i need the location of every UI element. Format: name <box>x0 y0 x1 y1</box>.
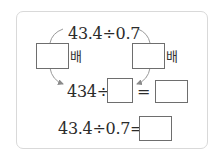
row3-prefix: 43.4÷0.7= <box>58 121 143 137</box>
left-multiplier-input[interactable] <box>36 43 69 69</box>
right-multiplier-unit: 배 <box>166 50 178 63</box>
row2-prefix: 434÷ <box>67 84 110 100</box>
right-multiplier-input[interactable] <box>132 43 165 69</box>
row2-equals: = <box>137 84 150 100</box>
left-multiplier-unit: 배 <box>70 50 82 63</box>
divisor-input[interactable] <box>107 78 133 103</box>
answer-input[interactable] <box>139 116 172 141</box>
top-expression: 43.4÷0.7 <box>68 26 140 42</box>
quotient-input[interactable] <box>155 80 188 103</box>
